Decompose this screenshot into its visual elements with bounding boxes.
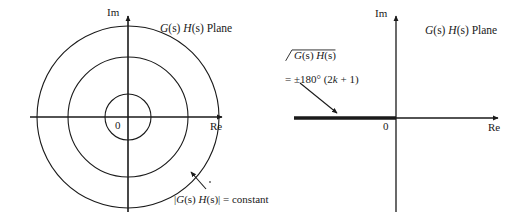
right-plane-label-s2: (s) — [457, 24, 469, 36]
right-plane-label-s1: (s) — [433, 24, 445, 36]
left-plane-label-plane-word: Plane — [204, 22, 232, 34]
leader-dot — [209, 181, 211, 183]
magnitude-annotation-s2: (s) — [206, 193, 218, 205]
left-plane-label-s2: (s) — [192, 22, 204, 34]
phase-annotation-tail: + 1) — [338, 73, 359, 85]
left-plane-label-s1: (s) — [168, 22, 180, 34]
magnitude-annotation: |G(s) H(s)| = constant — [174, 193, 269, 206]
right-origin-label: 0 — [383, 120, 389, 133]
figure-container: Im Re 0 G(s) H(s) Plane |G(s) H(s)| = co… — [0, 0, 526, 224]
right-plane-label-h: H — [448, 24, 456, 36]
left-im-axis-label: Im — [107, 6, 119, 19]
right-panel-axes — [294, 16, 498, 212]
phase-annotation-line2: = ±180° (2k + 1) — [285, 73, 359, 86]
magnitude-annotation-g: G — [176, 193, 184, 205]
left-origin-label: 0 — [115, 119, 121, 132]
left-re-axis-label: Re — [210, 120, 222, 133]
right-re-axis-label: Re — [488, 121, 500, 134]
right-annotation-leader-line — [300, 83, 337, 113]
right-im-axis-label: Im — [375, 7, 387, 20]
right-panel-leader — [300, 83, 337, 113]
right-plane-label-plane-word: Plane — [469, 24, 497, 36]
magnitude-annotation-s1: (s) — [184, 193, 196, 205]
left-panel-axes — [30, 16, 222, 212]
angle-notation-group: G(s) H(s) — [285, 49, 336, 62]
phase-annotation-s1: (s) — [302, 49, 314, 61]
right-plane-label: G(s) H(s) Plane — [425, 24, 497, 37]
phase-annotation-eq: = ±180° (2 — [285, 73, 333, 85]
phase-annotation-line1: G(s) H(s) — [285, 49, 336, 62]
magnitude-annotation-equals: = constant — [220, 193, 268, 205]
left-plane-label-h: H — [183, 22, 191, 34]
phase-annotation-g: G — [294, 49, 302, 61]
left-panel-leader — [191, 172, 211, 189]
phase-annotation-s2: (s) — [324, 49, 336, 61]
left-plane-label: G(s) H(s) Plane — [160, 22, 232, 35]
